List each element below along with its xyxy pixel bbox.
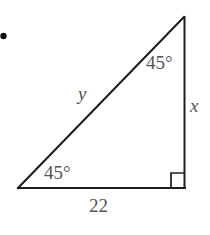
triangle-side-hypotenuse <box>18 17 184 188</box>
side-label-hypotenuse: y <box>78 84 86 103</box>
right-angle-marker-icon <box>171 173 185 187</box>
side-label-base: 22 <box>89 196 108 215</box>
side-label-vertical-leg: x <box>190 96 198 115</box>
geometry-figure: 45° 45° y x 22 <box>0 0 210 235</box>
angle-label-top: 45° <box>146 53 173 72</box>
angle-label-bottom-left: 45° <box>44 163 71 182</box>
list-bullet-icon <box>0 33 6 39</box>
